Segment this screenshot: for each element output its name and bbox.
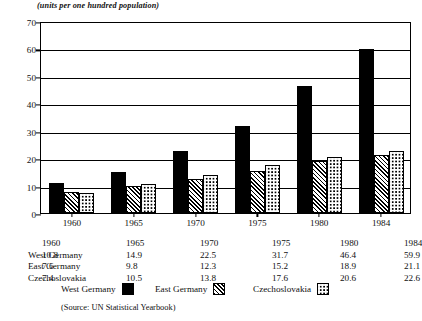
bar (359, 49, 374, 213)
source-note: (Source: UN Statistical Yearbook) (61, 303, 175, 312)
table-cell: 21.1 (404, 261, 420, 271)
chart-plot-area: 010203040506070 196019651970197519801984 (40, 22, 411, 214)
y-axis-tick-label: 30 (27, 128, 36, 138)
data-table: 196019651970197519801984West Germany10.8… (0, 238, 416, 284)
chart-caption: (units per one hundred population) (37, 1, 159, 10)
table-row-label: Czechoslovakia (28, 273, 86, 283)
legend-swatch (122, 283, 134, 295)
table-cell: 22.5 (200, 250, 216, 260)
bar (188, 179, 203, 213)
bar (79, 193, 94, 213)
legend-label: West Germany (61, 284, 116, 294)
bar-group (350, 23, 412, 213)
table-cell: 17.6 (272, 273, 288, 283)
table-cell: 15.2 (272, 261, 288, 271)
bar (312, 161, 327, 213)
table-cell: 20.6 (340, 273, 356, 283)
y-axis-tick-label: 40 (27, 100, 36, 110)
x-axis-tick (133, 213, 134, 217)
x-axis-tick-label: 1970 (186, 218, 204, 228)
x-axis-tick (257, 213, 258, 217)
legend-item: East Germany (155, 283, 225, 295)
table-cell: 59.9 (404, 250, 420, 260)
y-axis-tick (36, 214, 41, 215)
bar-group (41, 23, 103, 213)
table-column-header: 1980 (340, 238, 358, 248)
bar (235, 126, 250, 213)
bar (389, 151, 404, 213)
bars-layer (41, 23, 410, 213)
bar (64, 192, 79, 213)
bar (126, 186, 141, 213)
x-axis-tick-label: 1975 (248, 218, 266, 228)
legend-swatch (317, 283, 329, 295)
bar (49, 183, 64, 213)
bar (327, 157, 342, 214)
bar-group (103, 23, 165, 213)
table-column-header: 1970 (200, 238, 218, 248)
table-column-header: 1984 (404, 238, 422, 248)
table-cell: 7.6 (42, 261, 53, 271)
y-axis-tick-label: 10 (27, 183, 36, 193)
y-axis-tick-label: 0 (31, 210, 36, 220)
x-axis-tick (380, 213, 381, 217)
bar-group (227, 23, 289, 213)
bar (173, 151, 188, 213)
x-axis-tick (195, 213, 196, 217)
table-cell: 10.5 (126, 273, 142, 283)
table-row-label: East Germany (28, 261, 80, 271)
y-axis-tick-label: 70 (27, 18, 36, 28)
table-cell: 9.8 (126, 261, 137, 271)
legend-item: West Germany (61, 283, 134, 295)
legend-swatch (213, 283, 225, 295)
x-axis-tick-label: 1960 (63, 218, 81, 228)
table-column-header: 1975 (272, 238, 290, 248)
bar (374, 155, 389, 213)
x-axis-tick (71, 213, 72, 217)
table-row: West Germany10.814.922.531.746.459.9 (0, 250, 416, 262)
bar-group (165, 23, 227, 213)
bar (111, 172, 126, 213)
bar (250, 171, 265, 213)
table-row: East Germany7.69.812.315.218.921.1 (0, 261, 416, 273)
table-column-header: 1965 (126, 238, 144, 248)
table-cell: 14.9 (126, 250, 142, 260)
table-cell: 7.4 (42, 273, 53, 283)
x-axis-tick-label: 1965 (125, 218, 143, 228)
table-cell: 10.8 (42, 250, 58, 260)
y-axis-tick-label: 60 (27, 45, 36, 55)
table-header-row: 196019651970197519801984 (0, 238, 416, 250)
bar-group (288, 23, 350, 213)
table-column-header: 1960 (42, 238, 60, 248)
bar (203, 175, 218, 213)
chart-legend: West GermanyEast GermanyCzechoslovakia (0, 283, 416, 299)
bar (265, 165, 280, 213)
x-axis-tick (319, 213, 320, 217)
legend-label: Czechoslovakia (253, 284, 311, 294)
table-cell: 22.6 (404, 273, 420, 283)
bar (141, 184, 156, 213)
table-cell: 13.8 (200, 273, 216, 283)
legend-label: East Germany (155, 284, 207, 294)
bar (297, 86, 312, 213)
table-cell: 31.7 (272, 250, 288, 260)
y-axis-tick-label: 20 (27, 155, 36, 165)
table-cell: 12.3 (200, 261, 216, 271)
x-axis-tick-label: 1980 (310, 218, 328, 228)
x-axis-tick-label: 1984 (372, 218, 390, 228)
table-cell: 18.9 (340, 261, 356, 271)
table-cell: 46.4 (340, 250, 356, 260)
legend-item: Czechoslovakia (253, 283, 329, 295)
y-axis-tick-label: 50 (27, 73, 36, 83)
